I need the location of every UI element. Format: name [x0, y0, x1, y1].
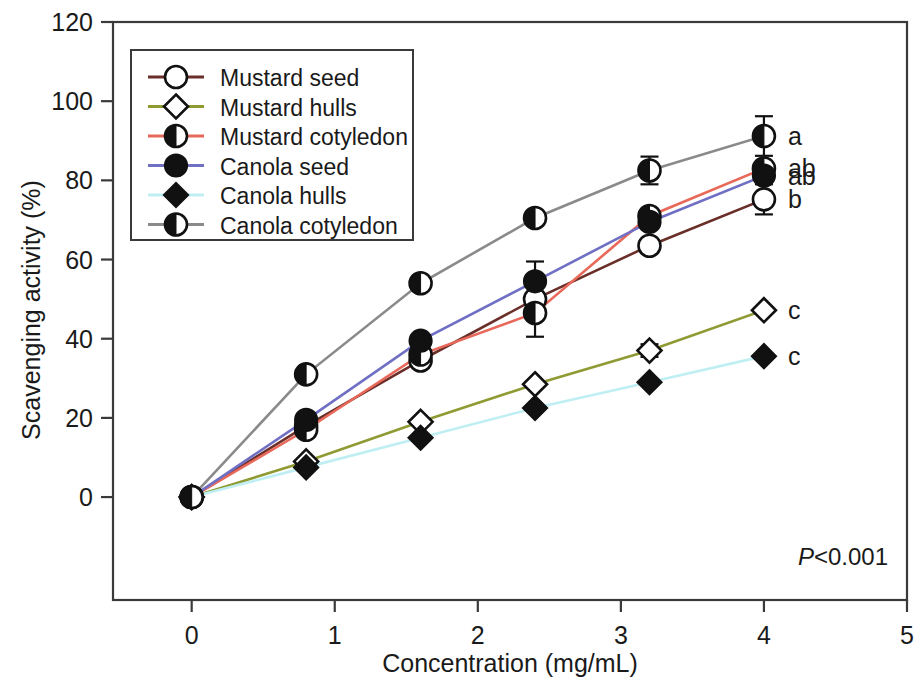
- scavenging-activity-figure: 020406080100120 012345 bcababca Mustard …: [0, 0, 915, 685]
- y-axis-title: Scavenging activity (%): [17, 180, 45, 440]
- x-tick-label: 0: [185, 621, 199, 649]
- significance-letter-5: a: [788, 122, 802, 150]
- y-tick-label: 80: [65, 166, 93, 194]
- legend-item-label-0: Mustard seed: [220, 65, 359, 91]
- y-tick-label: 100: [51, 87, 93, 115]
- x-tick-label: 3: [614, 621, 628, 649]
- significance-letter-1: c: [788, 296, 801, 324]
- y-tick-label: 60: [65, 246, 93, 274]
- data-point-marker-legend-3: [165, 155, 187, 177]
- legend-item-label-4: Canola hulls: [220, 183, 347, 209]
- y-tick-label: 120: [51, 8, 93, 36]
- x-tick-label: 5: [900, 621, 914, 649]
- p-value-symbol: P: [798, 543, 814, 570]
- data-point-marker-0-5: [753, 188, 775, 210]
- significance-letter-4: c: [788, 342, 801, 370]
- data-point-marker-3-2: [410, 330, 432, 352]
- chart-canvas: 020406080100120 012345 bcababca Mustard …: [0, 0, 915, 685]
- y-axis-ticks: [101, 22, 113, 497]
- x-tick-label: 1: [328, 621, 342, 649]
- chart-page: 020406080100120 012345 bcababca Mustard …: [0, 0, 915, 685]
- x-tick-label: 4: [757, 621, 771, 649]
- data-point-marker-legend-0: [165, 66, 187, 88]
- x-axis-title: Concentration (mg/mL): [382, 649, 638, 677]
- legend-item-label-5: Canola cotyledon: [220, 213, 398, 239]
- p-value-threshold: <0.001: [814, 543, 888, 570]
- p-value-annotation: P<0.001: [798, 543, 888, 570]
- x-tick-label: 2: [471, 621, 485, 649]
- y-tick-label: 40: [65, 325, 93, 353]
- y-tick-label: 0: [79, 483, 93, 511]
- significance-letter-3: ab: [788, 162, 816, 190]
- data-point-marker-0-4: [638, 235, 660, 257]
- data-point-marker-3-3: [524, 270, 546, 292]
- y-tick-label: 20: [65, 404, 93, 432]
- data-point-marker-3-1: [295, 409, 317, 431]
- legend: Mustard seedMustard hullsMustard cotyled…: [131, 50, 413, 240]
- x-axis-ticks: [192, 600, 907, 612]
- y-axis-tick-labels: 020406080100120: [51, 8, 93, 511]
- legend-item-label-3: Canola seed: [220, 154, 349, 180]
- data-point-marker-3-5: [753, 165, 775, 187]
- x-axis-tick-labels: 012345: [185, 621, 914, 649]
- legend-item-label-1: Mustard hulls: [220, 95, 357, 121]
- data-point-marker-3-4: [638, 211, 660, 233]
- legend-item-label-2: Mustard cotyledon: [220, 124, 408, 150]
